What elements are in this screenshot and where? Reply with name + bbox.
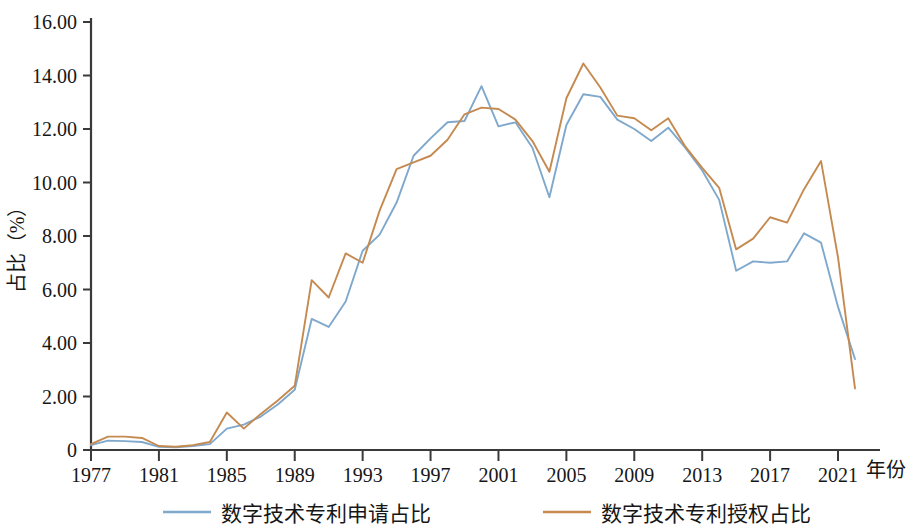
legend-label-1: 数字技术专利申请占比 (221, 502, 431, 526)
y-axis-ticks: 02.004.006.008.0010.0012.0014.0016.00 (32, 11, 91, 461)
legend-label-2: 数字技术专利授权占比 (601, 502, 811, 526)
x-tick-label: 2001 (478, 464, 518, 486)
y-axis-title: 占比（%） (6, 197, 28, 294)
x-axis-title: 年份 (866, 459, 906, 481)
x-tick-label: 1985 (207, 464, 247, 486)
series-line-1 (91, 86, 855, 447)
x-tick-label: 2009 (614, 464, 654, 486)
y-tick-label: 14.00 (32, 65, 77, 87)
data-series-group (91, 63, 855, 447)
x-tick-label: 1993 (343, 464, 383, 486)
y-tick-label: 10.00 (32, 172, 77, 194)
chart-legend: 数字技术专利申请占比数字技术专利授权占比 (163, 502, 811, 526)
y-tick-label: 0 (67, 439, 77, 461)
y-tick-label: 6.00 (42, 279, 77, 301)
x-tick-label: 1997 (411, 464, 451, 486)
y-tick-label: 2.00 (42, 386, 77, 408)
x-tick-label: 1977 (71, 464, 111, 486)
y-tick-label: 8.00 (42, 225, 77, 247)
y-tick-label: 12.00 (32, 118, 77, 140)
chart-figure: 02.004.006.008.0010.0012.0014.0016.00 19… (0, 0, 916, 530)
line-chart: 02.004.006.008.0010.0012.0014.0016.00 19… (0, 0, 916, 530)
series-line-2 (91, 63, 855, 446)
x-tick-label: 2017 (750, 464, 790, 486)
x-tick-label: 1981 (139, 464, 179, 486)
y-tick-label: 4.00 (42, 332, 77, 354)
y-tick-label: 16.00 (32, 11, 77, 33)
x-tick-label: 2021 (818, 464, 858, 486)
x-tick-label: 1989 (275, 464, 315, 486)
x-tick-label: 2013 (682, 464, 722, 486)
x-axis-ticks: 1977198119851989199319972001200520092013… (71, 450, 858, 486)
x-tick-label: 2005 (546, 464, 586, 486)
